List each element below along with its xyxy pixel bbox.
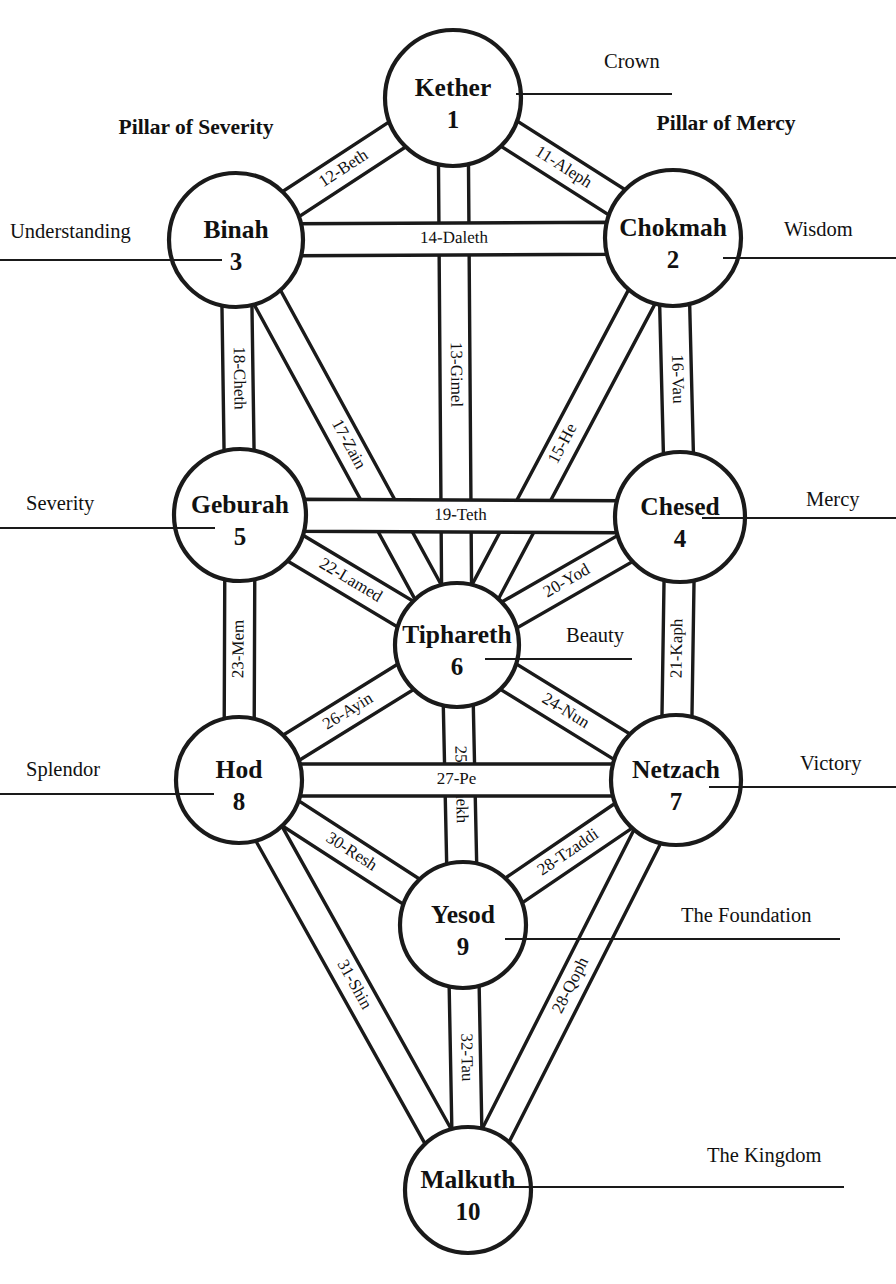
path-label: 13-Gimel (447, 342, 466, 408)
sephira-name: Malkuth (421, 1165, 516, 1194)
sephira-number: 2 (667, 246, 680, 273)
path-16-vau: 16-Vau (660, 299, 694, 460)
meaning-label: Victory (800, 752, 862, 775)
meaning-yesod: The Foundation (505, 904, 840, 939)
sephira-number: 9 (457, 933, 470, 960)
tree-of-life-diagram: 11-Aleph12-Beth13-Gimel14-Daleth15-He16-… (0, 0, 896, 1284)
meaning-chokmah: Wisdom (723, 218, 896, 258)
path-21-kaph: 21-Kaph (662, 575, 694, 722)
sephira-name: Geburah (191, 490, 289, 519)
pillar-heading-severity: Pillar of Severity (119, 115, 274, 139)
path-label: 32-Tau (457, 1033, 477, 1082)
meaning-label: The Kingdom (707, 1144, 821, 1167)
meaning-label: Beauty (566, 624, 625, 647)
meaning-label: Crown (604, 50, 660, 72)
path-label: 18-Cheth (230, 346, 250, 410)
sephira-binah[interactable]: Binah3 (169, 173, 303, 307)
path-14-daleth: 14-Daleth (296, 222, 612, 255)
sephira-number: 4 (674, 525, 687, 552)
sephira-name: Kether (415, 73, 491, 102)
path-26-ayin: 26-Ayin (279, 661, 418, 763)
sephira-number: 3 (230, 248, 243, 275)
path-label: 16-Vau (668, 354, 688, 404)
path-11-aleph: 11-Aleph (496, 118, 629, 218)
meaning-label: Mercy (806, 488, 860, 511)
meaning-label: The Foundation (681, 904, 811, 926)
sephira-number: 5 (234, 523, 247, 550)
sephira-name: Chesed (640, 492, 719, 521)
sephira-name: Binah (203, 215, 268, 244)
meaning-label: Splendor (26, 758, 100, 781)
sephira-number: 10 (456, 1198, 481, 1225)
pillar-heading-mercy: Pillar of Mercy (657, 111, 796, 135)
sephira-number: 7 (670, 788, 683, 815)
path-label: 27-Pe (437, 769, 477, 788)
sephira-number: 1 (447, 106, 460, 133)
meaning-kether: Crown (516, 50, 672, 94)
sephira-tiphareth[interactable]: Tiphareth6 (395, 583, 519, 707)
sephira-name: Netzach (632, 755, 720, 784)
sephira-name: Hod (216, 755, 263, 784)
sephira-malkuth[interactable]: Malkuth10 (405, 1127, 531, 1253)
path-27-pe: 27-Pe (295, 764, 618, 796)
path-28-qoph: 28-Qoph (480, 825, 663, 1147)
path-19-teth: 19-Teth (299, 499, 622, 532)
sephira-name: Chokmah (619, 213, 727, 242)
path-12-beth: 12-Beth (278, 119, 410, 220)
meaning-label: Understanding (10, 220, 131, 243)
sephira-netzach[interactable]: Netzach7 (611, 715, 741, 845)
path-label: 21-Kaph (666, 618, 686, 678)
path-32-tau: 32-Tau (449, 981, 482, 1135)
path-23-mem: 23-Mem (224, 574, 255, 724)
sephira-hod[interactable]: Hod8 (176, 717, 302, 843)
sephira-yesod[interactable]: Yesod9 (400, 862, 526, 988)
path-label: 23-Mem (228, 620, 247, 679)
sephira-kether[interactable]: Kether1 (385, 30, 521, 166)
path-18-cheth: 18-Cheth (222, 300, 254, 456)
meaning-label: Severity (26, 492, 95, 515)
path-label: 19-Teth (434, 505, 487, 524)
sephira-name: Yesod (431, 900, 495, 929)
sephira-number: 8 (233, 788, 246, 815)
sephira-number: 6 (451, 653, 464, 680)
sephira-chokmah[interactable]: Chokmah2 (605, 170, 741, 306)
path-label: 14-Daleth (420, 228, 489, 247)
meaning-malkuth: The Kingdom (509, 1144, 844, 1187)
path-24-nun: 24-Nun (496, 661, 635, 762)
meaning-label: Wisdom (784, 218, 853, 240)
sephira-name: Tiphareth (402, 620, 512, 649)
sephira-geburah[interactable]: Geburah5 (174, 449, 306, 581)
